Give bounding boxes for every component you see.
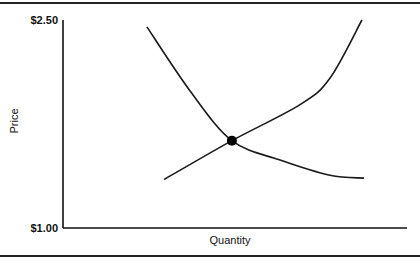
y-tick-label-bottom: $1.00: [30, 222, 58, 234]
y-tick-label-top: $2.50: [30, 14, 58, 26]
equilibrium-point: [227, 136, 237, 146]
demand-curve: [147, 27, 364, 178]
x-axis-label: Quantity: [210, 234, 251, 246]
y-axis-label: Price: [8, 108, 20, 133]
supply-demand-chart: $2.50 $1.00 Price Quantity: [0, 0, 420, 263]
